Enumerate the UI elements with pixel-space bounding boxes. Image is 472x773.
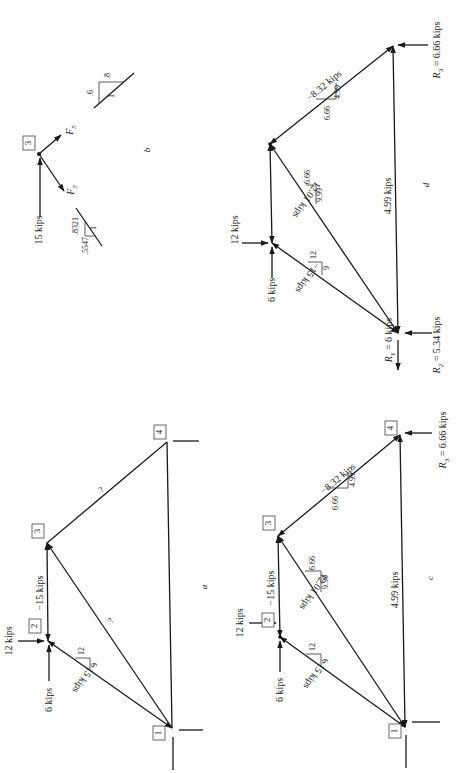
svg-text:9.99: 9.99	[315, 188, 324, 202]
member-1-3	[278, 536, 405, 727]
member-2-3	[270, 144, 272, 243]
member-1-4	[400, 435, 405, 727]
svg-text:F3: F3	[65, 185, 79, 196]
panel-c-truss: 1 2 3 4 12 kips 6 kips −15 kips −15 kips…	[234, 411, 451, 768]
slope-triangle-top: .6 .8 1	[86, 73, 134, 108]
force-f5-label: F5	[64, 125, 78, 136]
member-3-4-force: ?	[96, 485, 105, 495]
panel-d-truss: 12 kips 6 kips −15 kips 12.01 kips −8.32…	[229, 21, 445, 374]
member-1-2	[280, 637, 405, 727]
svg-text:R1 = 6 kips: R1 = 6 kips	[383, 318, 397, 364]
svg-text:R2 = 5.34 kips: R2 = 5.34 kips	[431, 316, 445, 374]
node-label-3: 3	[32, 524, 44, 538]
node-label-1: 1	[153, 726, 165, 740]
member-1-4	[393, 46, 398, 333]
load-12kips-label: 12 kips	[229, 215, 240, 244]
svg-text:4.99: 4.99	[348, 473, 357, 487]
slope-triangle-bottom: .8321 .5547 1	[71, 208, 102, 255]
reaction-r3-label: R3 = 6.66 kips	[437, 411, 451, 469]
svg-text:.5547: .5547	[81, 237, 90, 255]
reaction-r2-label: R2 = 5.34 kips	[431, 316, 445, 374]
truss-diagram-page: 1 2 3 4 12 kips 6 kips −15 kips −15 kips…	[0, 0, 472, 773]
panel-a-caption: a	[199, 584, 209, 589]
panel-c-caption: c	[425, 576, 435, 580]
panel-b-caption: b	[142, 147, 152, 152]
svg-text:2: 2	[262, 618, 272, 623]
svg-text:.8: .8	[103, 73, 112, 79]
member-1-4-force: 4.99 kips	[382, 178, 393, 215]
svg-text:6.66: 6.66	[308, 556, 317, 570]
member-3-4	[47, 442, 167, 543]
svg-text:12: 12	[77, 647, 86, 655]
svg-text:2: 2	[29, 624, 39, 629]
load-15kips-label: 15 kips	[33, 215, 44, 244]
svg-text:.6: .6	[86, 90, 95, 96]
svg-text:6.66: 6.66	[323, 106, 332, 120]
member-2-3	[278, 536, 280, 637]
svg-text:R3 = 6.66 kips: R3 = 6.66 kips	[431, 21, 445, 79]
force-f3-label: F3	[65, 185, 79, 196]
svg-text:F5: F5	[64, 125, 78, 136]
node-label-1: 1	[389, 724, 401, 738]
svg-text:12: 12	[309, 251, 318, 259]
svg-text:R3 = 6.66 kips: R3 = 6.66 kips	[437, 411, 451, 469]
svg-text:4: 4	[385, 425, 395, 430]
force-f5-arrow	[39, 135, 61, 154]
member-3-4	[270, 46, 393, 144]
svg-text:3: 3	[263, 520, 273, 525]
reaction-r1-label: R1 = 6 kips	[383, 318, 397, 364]
node-label-3: 3	[23, 136, 35, 150]
member-1-3	[47, 543, 172, 728]
svg-text:12: 12	[308, 643, 317, 651]
member-2-3-force: −15 kips	[34, 575, 45, 610]
panel-d-caption: d	[421, 182, 431, 187]
svg-text:9: 9	[90, 663, 99, 667]
svg-text:1: 1	[107, 94, 116, 98]
member-1-2-force: −15 kips	[293, 261, 322, 296]
node-label-3: 3	[263, 516, 275, 530]
reaction-r3-label: R3 = 6.66 kips	[431, 21, 445, 79]
load-6kips-label: 6 kips	[43, 688, 54, 712]
node-label-4: 4	[385, 421, 397, 435]
load-12kips-label: 12 kips	[3, 626, 14, 655]
load-6kips-label: 6 kips	[266, 278, 277, 302]
force-f3-arrow	[39, 154, 64, 191]
svg-text:1: 1	[389, 729, 399, 734]
svg-text:4.99: 4.99	[333, 85, 342, 99]
load-6kips-label: 6 kips	[274, 678, 285, 702]
svg-text:9: 9	[322, 266, 331, 270]
panel-a-truss: 1 2 3 4 12 kips 6 kips −15 kips −15 kips…	[3, 425, 209, 770]
member-1-3	[270, 144, 398, 333]
svg-text:9.99: 9.99	[321, 575, 330, 589]
member-2-3	[47, 543, 48, 641]
svg-text:.8321: .8321	[71, 217, 80, 235]
load-12kips-label: 12 kips	[234, 608, 245, 637]
svg-text:3: 3	[23, 140, 33, 145]
member-2-3-force: −15 kips	[265, 570, 276, 605]
node-label-2: 2	[29, 619, 41, 633]
member-1-3-force: ?	[105, 616, 116, 625]
member-1-2	[272, 243, 398, 333]
node-label-2: 2	[262, 613, 274, 627]
member-1-4	[167, 442, 172, 728]
svg-text:4: 4	[154, 429, 164, 434]
svg-text:3: 3	[32, 528, 42, 533]
panel-b-free-body: 3 15 kips F5 F3 .6 .8 1 .8321 .5547 1 b	[23, 73, 152, 255]
svg-text:1: 1	[89, 226, 98, 230]
svg-text:6.66: 6.66	[331, 496, 340, 510]
member-1-4-force: 4.99 kips	[389, 572, 400, 609]
member-3-4	[278, 435, 400, 536]
node-label-4: 4	[154, 425, 166, 439]
svg-text:9: 9	[321, 659, 330, 663]
member-1-2	[48, 641, 172, 728]
svg-text:6.66: 6.66	[303, 170, 312, 184]
svg-text:1: 1	[153, 731, 163, 736]
